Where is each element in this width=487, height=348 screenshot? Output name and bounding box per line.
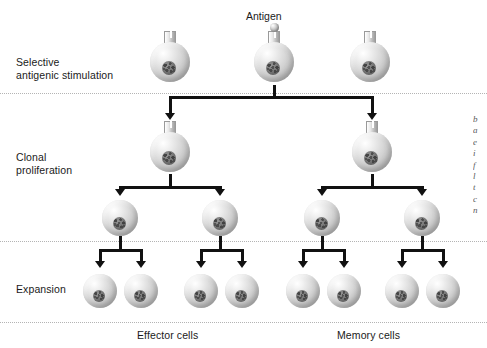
divider-proliferation bbox=[0, 241, 487, 242]
clipped-caption-line-2: a bbox=[473, 125, 487, 136]
naive-cell-left-receptor-notch bbox=[170, 31, 172, 38]
split-clone-right-arrow-1 bbox=[317, 189, 327, 196]
split-selection-arrow-2 bbox=[367, 113, 377, 120]
clipped-caption-text: baeifltcnas bbox=[473, 114, 487, 214]
effector-cell-4 bbox=[225, 274, 259, 308]
clone-cell-right-receptor-notch bbox=[372, 121, 374, 128]
effector-cell-2 bbox=[124, 274, 158, 308]
split-prolif-4-bus bbox=[401, 249, 445, 252]
clipped-caption-line-4: i bbox=[473, 148, 487, 159]
split-prolif-3-arrow-1 bbox=[298, 261, 308, 268]
memory-cell-2 bbox=[327, 274, 361, 308]
split-prolif-2-arrow-2 bbox=[237, 261, 247, 268]
split-prolif-4-arrow-2 bbox=[438, 261, 448, 268]
stage-label-clonal-proliferation: Clonal proliferation bbox=[16, 151, 72, 176]
prolif-cell-3-nucleus bbox=[315, 217, 328, 230]
split-clone-left-arrow-2 bbox=[215, 189, 225, 196]
naive-cell-right bbox=[350, 42, 390, 82]
memory-cell-3-nucleus bbox=[395, 290, 407, 302]
divider-expansion bbox=[0, 322, 487, 323]
clonal-selection-diagram: Antigen Selective antigenic stimulationC… bbox=[0, 0, 487, 348]
split-prolif-2-bus bbox=[200, 249, 244, 252]
split-selection-bus bbox=[169, 96, 374, 99]
prolif-cell-2-nucleus bbox=[213, 217, 226, 230]
split-selection-branch-1 bbox=[169, 97, 172, 114]
split-prolif-4-arrow-1 bbox=[397, 261, 407, 268]
naive-cell-left-nucleus bbox=[162, 61, 176, 75]
naive-cell-left bbox=[150, 42, 190, 82]
clone-cell-left-receptor-notch bbox=[170, 121, 172, 128]
split-prolif-2-arrow-1 bbox=[196, 261, 206, 268]
memory-cell-2-nucleus bbox=[337, 290, 349, 302]
memory-cell-1 bbox=[286, 274, 320, 308]
effector-cell-4-nucleus bbox=[235, 290, 247, 302]
split-prolif-1-bus bbox=[99, 249, 143, 252]
antigen-label: Antigen bbox=[246, 10, 282, 22]
clipped-caption-line-5: f bbox=[473, 160, 487, 171]
memory-cell-4 bbox=[426, 274, 460, 308]
split-prolif-1-arrow-2 bbox=[136, 261, 146, 268]
prolif-cell-3 bbox=[304, 200, 340, 236]
clone-cell-left bbox=[150, 132, 190, 172]
effector-cell-3 bbox=[184, 274, 218, 308]
effector-cell-2-nucleus bbox=[134, 290, 146, 302]
effector-cell-3-nucleus bbox=[194, 290, 206, 302]
split-selection-branch-2 bbox=[371, 97, 374, 114]
memory-cell-3 bbox=[385, 274, 419, 308]
split-selection-arrow-1 bbox=[165, 113, 175, 120]
clipped-caption-line-8: c bbox=[473, 194, 487, 205]
split-prolif-3-bus bbox=[302, 249, 346, 252]
clipped-caption-line-1: b bbox=[473, 114, 487, 125]
antigen-icon bbox=[270, 23, 279, 32]
caption-effector-cells: Effector cells bbox=[137, 329, 198, 341]
clone-cell-right bbox=[352, 132, 392, 172]
split-prolif-3-arrow-2 bbox=[339, 261, 349, 268]
prolif-cell-1-nucleus bbox=[113, 217, 126, 230]
prolif-cell-4-nucleus bbox=[415, 217, 428, 230]
split-prolif-1-arrow-1 bbox=[95, 261, 105, 268]
effector-cell-1-nucleus bbox=[93, 290, 105, 302]
naive-cell-center-receptor-notch bbox=[274, 31, 276, 38]
split-clone-right-arrow-2 bbox=[417, 189, 427, 196]
memory-cell-4-nucleus bbox=[436, 290, 448, 302]
clone-cell-left-nucleus bbox=[162, 151, 176, 165]
naive-cell-right-receptor-notch bbox=[370, 31, 372, 38]
stage-label-selective-antigenic-stimulation: Selective antigenic stimulation bbox=[16, 56, 113, 81]
prolif-cell-1 bbox=[102, 200, 138, 236]
stage-label-expansion: Expansion bbox=[16, 283, 66, 296]
clipped-caption-line-9: n bbox=[473, 205, 487, 214]
clipped-caption-line-3: e bbox=[473, 137, 487, 148]
prolif-cell-4 bbox=[404, 200, 440, 236]
split-clone-left-arrow-1 bbox=[115, 189, 125, 196]
clipped-caption-line-7: t bbox=[473, 182, 487, 193]
split-clone-left-bus bbox=[119, 186, 222, 189]
naive-cell-center bbox=[254, 42, 294, 82]
split-clone-right-bus bbox=[321, 186, 424, 189]
clone-cell-right-nucleus bbox=[364, 151, 378, 165]
memory-cell-1-nucleus bbox=[296, 290, 308, 302]
naive-cell-center-nucleus bbox=[266, 61, 280, 75]
naive-cell-right-nucleus bbox=[362, 61, 376, 75]
caption-memory-cells: Memory cells bbox=[337, 329, 400, 341]
prolif-cell-2 bbox=[202, 200, 238, 236]
effector-cell-1 bbox=[83, 274, 117, 308]
clipped-caption-line-6: l bbox=[473, 171, 487, 182]
divider-stimulation bbox=[0, 93, 487, 94]
